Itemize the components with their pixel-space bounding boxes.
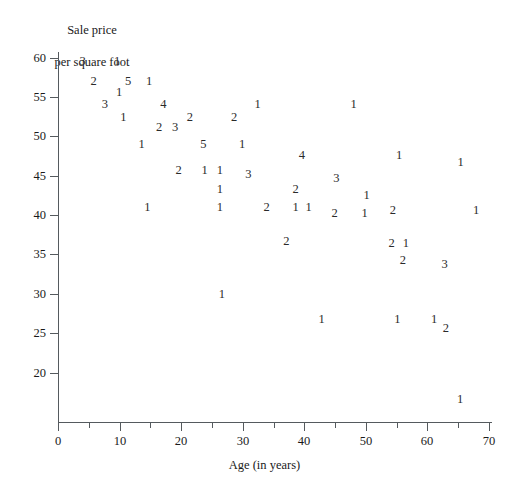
y-tick-30 xyxy=(50,294,58,295)
x-tick-label-40: 40 xyxy=(289,434,319,448)
data-point: 1 xyxy=(316,313,328,326)
data-point: 3 xyxy=(99,98,111,111)
x-axis-title: Age (in years) xyxy=(0,458,529,473)
x-tick-label-60: 60 xyxy=(412,434,442,448)
y-tick-label-45: 45 xyxy=(20,170,46,183)
y-tick-label-35: 35 xyxy=(20,248,46,261)
data-point: 1 xyxy=(117,111,129,124)
x-tick-50 xyxy=(366,423,367,431)
y-tick-25 xyxy=(50,333,58,334)
data-point: 2 xyxy=(88,75,100,88)
y-tick-55 xyxy=(50,97,58,98)
data-point: 1 xyxy=(290,201,302,214)
x-tick-20 xyxy=(181,423,182,431)
data-point: 1 xyxy=(143,75,155,88)
y-tick-label-20: 20 xyxy=(20,367,46,380)
data-point: 1 xyxy=(136,138,148,151)
x-tick-60 xyxy=(427,423,428,431)
data-point: 2 xyxy=(153,121,165,134)
data-point: 3 xyxy=(77,55,89,68)
x-tick-0 xyxy=(58,423,59,431)
x-tick-label-30: 30 xyxy=(228,434,258,448)
data-point: 1 xyxy=(454,393,466,406)
scatter-plot-figure: Sale price per square foot 2025303540455… xyxy=(0,0,529,487)
x-minor-tick-35 xyxy=(274,423,275,428)
data-point: 1 xyxy=(470,204,482,217)
data-point: 4 xyxy=(157,98,169,111)
data-point: 3 xyxy=(242,168,254,181)
x-tick-10 xyxy=(120,423,121,431)
data-point: 1 xyxy=(361,189,373,202)
data-point: 2 xyxy=(173,164,185,177)
x-minor-tick-15 xyxy=(150,423,151,428)
data-point: 2 xyxy=(397,254,409,267)
data-point: 1 xyxy=(199,164,211,177)
data-point: 2 xyxy=(440,322,452,335)
data-point: 3 xyxy=(330,172,342,185)
data-point: 1 xyxy=(252,98,264,111)
y-axis-line xyxy=(58,52,59,423)
data-point: 2 xyxy=(386,237,398,250)
data-point: 1 xyxy=(141,201,153,214)
data-point: 1 xyxy=(216,288,228,301)
data-point: 2 xyxy=(228,111,240,124)
x-tick-label-50: 50 xyxy=(351,434,381,448)
x-tick-40 xyxy=(304,423,305,431)
y-tick-label-40: 40 xyxy=(20,209,46,222)
data-point: 1 xyxy=(400,237,412,250)
data-point: 1 xyxy=(359,207,371,220)
x-tick-70 xyxy=(489,423,490,431)
data-point: 3 xyxy=(439,258,451,271)
data-point: 1 xyxy=(214,183,226,196)
x-tick-label-0: 0 xyxy=(43,434,73,448)
data-point: 1 xyxy=(113,86,125,99)
y-tick-45 xyxy=(50,176,58,177)
data-point: 1 xyxy=(428,313,440,326)
data-point: 2 xyxy=(184,111,196,124)
y-tick-35 xyxy=(50,254,58,255)
x-tick-label-10: 10 xyxy=(105,434,135,448)
data-point: 4 xyxy=(296,149,308,162)
data-point: 1 xyxy=(214,201,226,214)
data-point: 1 xyxy=(391,313,403,326)
x-minor-tick-55 xyxy=(397,423,398,428)
x-tick-label-70: 70 xyxy=(474,434,504,448)
y-tick-label-25: 25 xyxy=(20,327,46,340)
data-point: 2 xyxy=(280,235,292,248)
data-point: 1 xyxy=(455,156,467,169)
data-point: 1 xyxy=(111,55,123,68)
y-tick-60 xyxy=(50,58,58,59)
y-tick-label-50: 50 xyxy=(20,130,46,143)
data-point: 2 xyxy=(329,207,341,220)
data-point: 2 xyxy=(261,201,273,214)
data-point: 1 xyxy=(236,138,248,151)
y-tick-label-60: 60 xyxy=(20,52,46,65)
x-minor-tick-25 xyxy=(212,423,213,428)
data-point: 1 xyxy=(348,98,360,111)
data-point: 3 xyxy=(169,121,181,134)
x-tick-label-20: 20 xyxy=(166,434,196,448)
x-minor-tick-65 xyxy=(458,423,459,428)
x-tick-30 xyxy=(243,423,244,431)
y-tick-label-55: 55 xyxy=(20,91,46,104)
y-tick-50 xyxy=(50,136,58,137)
data-point: 1 xyxy=(393,149,405,162)
x-minor-tick-5 xyxy=(89,423,90,428)
data-point: 2 xyxy=(290,183,302,196)
y-tick-label-30: 30 xyxy=(20,288,46,301)
data-point: 2 xyxy=(387,204,399,217)
x-minor-tick-45 xyxy=(335,423,336,428)
data-point: 1 xyxy=(303,201,315,214)
y-tick-20 xyxy=(50,373,58,374)
y-tick-40 xyxy=(50,215,58,216)
plot-area: 202530354045505560 010203040506070 31251… xyxy=(0,0,529,487)
data-point: 5 xyxy=(197,138,209,151)
data-point: 1 xyxy=(214,164,226,177)
